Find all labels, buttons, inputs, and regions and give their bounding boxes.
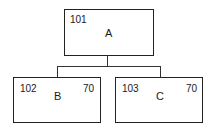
- node-a-id: 101: [70, 15, 87, 25]
- node-c-value: 70: [186, 84, 197, 94]
- node-a: 101 A: [64, 9, 154, 56]
- node-b-value: 70: [83, 84, 94, 94]
- node-c-label: C: [156, 91, 164, 102]
- node-b-id: 102: [20, 84, 37, 94]
- node-a-label: A: [105, 28, 112, 39]
- connector-right-drop: [160, 66, 161, 77]
- node-b-label: B: [54, 91, 61, 102]
- connector-horizontal: [57, 66, 161, 67]
- connector-left-drop: [57, 66, 58, 77]
- node-c: 103 C 70: [115, 77, 203, 123]
- node-c-id: 103: [122, 84, 139, 94]
- node-b: 102 B 70: [13, 77, 101, 123]
